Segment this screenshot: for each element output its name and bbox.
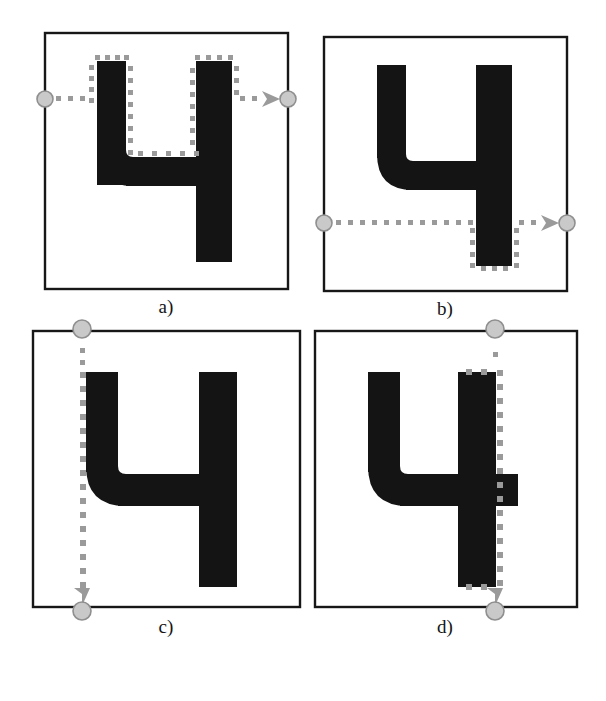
panel-label-d: d) xyxy=(405,616,485,638)
scan-start-marker-d[interactable] xyxy=(486,320,504,338)
figure-container: a) xyxy=(0,0,606,701)
scan-end-marker-d[interactable] xyxy=(486,602,504,620)
panel-d-frame xyxy=(315,331,577,607)
panel-d-graphics xyxy=(0,0,606,701)
scan-line-d xyxy=(493,352,498,357)
